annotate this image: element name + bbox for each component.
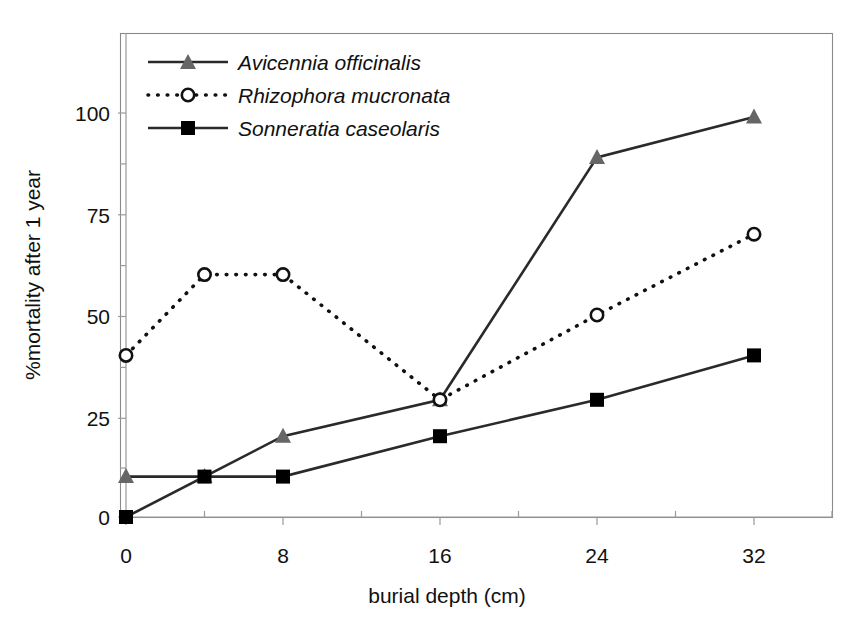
legend-label-sonneratia: Sonneratia caseolaris [238,117,440,140]
legend: Avicennia officinalis Rhizophora mucrona… [140,42,540,142]
legend-item-sonneratia-caseolaris[interactable]: Sonneratia caseolaris [148,117,440,140]
x-tick-label-8: 8 [277,544,289,567]
legend-item-rhizophora-mucronata[interactable]: Rhizophora mucronata [148,84,450,107]
legend-item-avicennia-officinalis[interactable]: Avicennia officinalis [148,51,421,74]
series-line-rhizophora-mucronata [126,234,754,400]
chart-figure: 100 75 50 25 0 0 8 16 24 32 burial depth… [0,0,863,635]
legend-label-avicennia: Avicennia officinalis [236,51,421,74]
x-tick-label-16: 16 [428,544,451,567]
square-marker-icon [181,121,195,135]
x-tick-label-0: 0 [120,544,132,567]
x-axis-major-ticks [126,517,754,525]
x-axis-minor-ticks [205,511,833,517]
x-tick-label-32: 32 [742,544,765,567]
y-tick-label-100: 100 [75,102,110,125]
series-markers-sonneratia-caseolaris [119,348,761,524]
series-markers-rhizophora-mucronata [120,228,760,406]
y-tick-label-50: 50 [87,305,110,328]
circle-open-marker-icon [182,89,194,101]
y-tick-label-75: 75 [87,204,110,227]
x-axis-title: burial depth (cm) [368,584,526,607]
y-tick-label-25: 25 [87,407,110,430]
y-tick-label-0: 0 [98,506,110,529]
y-axis-major-ticks [118,113,126,517]
x-tick-label-24: 24 [585,544,609,567]
y-axis-title: %mortality after 1 year [21,170,44,380]
chart-svg: 100 75 50 25 0 0 8 16 24 32 burial depth… [0,0,863,635]
series-line-avicennia-officinalis [126,117,754,477]
legend-label-rhizophora: Rhizophora mucronata [238,84,450,107]
series-markers-avicennia-officinalis [118,109,762,484]
